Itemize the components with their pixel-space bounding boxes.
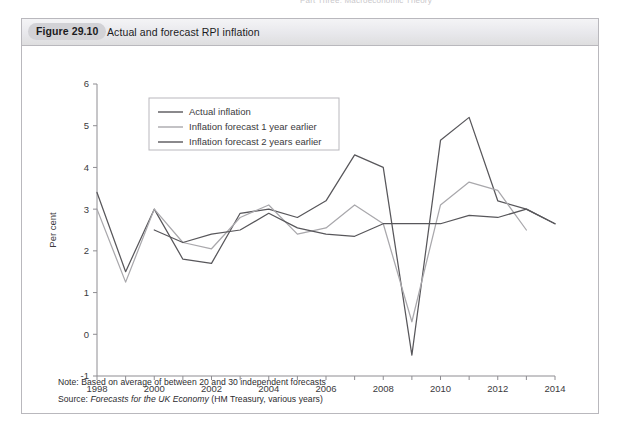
y-tick-label: 2	[84, 245, 89, 256]
x-tick-label: 2008	[373, 383, 394, 394]
line-chart: -101234561998200020022004200620082010201…	[22, 46, 598, 413]
figure-page: Part Three: Macroeconomic Theory Figure …	[0, 0, 621, 435]
x-tick-label: 2010	[430, 383, 451, 394]
source-suffix: (HM Treasury, various years)	[209, 394, 323, 404]
figure-container: Figure 29.10 Actual and forecast RPI inf…	[21, 18, 599, 414]
legend-label-2: Inflation forecast 2 years earlier	[189, 136, 322, 147]
y-tick-label: 4	[84, 162, 89, 173]
figure-source: Source: Forecasts for the UK Economy (HM…	[58, 394, 323, 404]
source-prefix: Source:	[58, 394, 90, 404]
y-tick-label: 6	[84, 78, 89, 89]
series-line-1	[97, 182, 526, 322]
figure-caption: Actual and forecast RPI inflation	[107, 25, 260, 39]
y-tick-label: 5	[84, 120, 89, 131]
y-tick-label: 3	[84, 204, 89, 215]
x-tick-label: 2012	[487, 383, 508, 394]
y-axis-title: Per cent	[47, 212, 58, 248]
series-line-2	[154, 209, 555, 242]
y-tick-label: 0	[84, 329, 89, 340]
series-line-0	[97, 117, 555, 355]
figure-number-badge: Figure 29.10	[28, 23, 106, 40]
running-header: Part Three: Macroeconomic Theory	[300, 0, 600, 6]
source-title: Forecasts for the UK Economy	[90, 394, 208, 404]
x-tick-label: 2014	[544, 383, 565, 394]
figure-note: Note: Based on average of between 20 and…	[58, 377, 326, 387]
figure-header-bar: Figure 29.10 Actual and forecast RPI inf…	[22, 19, 598, 46]
legend-label-1: Inflation forecast 1 year earlier	[189, 121, 317, 132]
y-tick-label: 1	[84, 287, 89, 298]
chart-plot-area: -101234561998200020022004200620082010201…	[22, 46, 598, 413]
legend-label-0: Actual inflation	[189, 106, 251, 117]
